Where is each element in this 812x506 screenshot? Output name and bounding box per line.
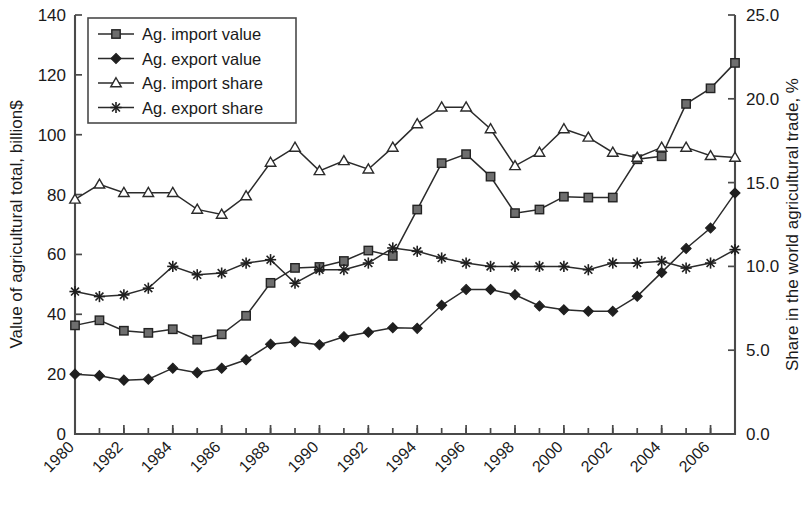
data-point (608, 147, 619, 156)
data-point (682, 100, 690, 108)
data-point (412, 119, 423, 128)
data-point (705, 257, 716, 268)
data-point (290, 337, 300, 347)
x-tick-label: 1996 (431, 438, 468, 475)
data-point (363, 257, 374, 268)
x-tick-label: 2004 (627, 438, 664, 475)
data-point (94, 291, 105, 302)
data-point (241, 257, 252, 268)
data-point (118, 289, 129, 300)
series-ag-export-value (70, 188, 740, 385)
data-point (95, 316, 103, 324)
chart-canvas: 020406080100120140 0.05.010.015.020.025.… (0, 0, 812, 506)
y-axis-tick-labels: 020406080100120140 (38, 6, 66, 444)
data-point (71, 321, 79, 329)
data-point (144, 329, 152, 337)
data-point (656, 256, 667, 267)
data-point (559, 305, 569, 315)
data-point (584, 193, 592, 201)
data-point (388, 323, 398, 333)
y2-tick-label: 25.0 (746, 6, 779, 25)
x-tick-label: 1982 (89, 438, 126, 475)
y-axis-title: Value of agricultural total, billion$ (7, 100, 26, 349)
data-point (193, 336, 201, 344)
data-point (169, 325, 177, 333)
data-point (731, 59, 739, 67)
data-point (266, 279, 274, 287)
data-point (681, 262, 692, 273)
y-tick-label: 60 (47, 245, 66, 264)
data-point (583, 306, 593, 316)
x-axis-tick-labels: 1980198219841986198819901992199419961998… (40, 438, 713, 475)
data-point (314, 264, 325, 275)
data-point (70, 194, 81, 203)
data-point (241, 355, 251, 365)
data-point (608, 306, 618, 316)
data-point (534, 261, 545, 272)
data-point (314, 340, 324, 350)
data-point (339, 332, 349, 342)
data-point (364, 246, 372, 254)
data-point (217, 363, 227, 373)
data-point (560, 192, 568, 200)
data-point (559, 124, 570, 133)
data-point (511, 209, 519, 217)
data-point (216, 268, 227, 279)
data-point (413, 205, 421, 213)
data-point (339, 156, 350, 165)
y-tick-label: 100 (38, 126, 66, 145)
data-point (340, 257, 348, 265)
y2-axis-title: Share in the world agricultural trade, % (783, 78, 802, 371)
x-tick-label: 1998 (480, 438, 517, 475)
x-tick-label: 2002 (578, 438, 615, 475)
legend-label: Ag. import share (142, 74, 263, 92)
data-point (217, 330, 225, 338)
x-tick-label: 2006 (675, 438, 712, 475)
x-tick-label: 1990 (284, 438, 321, 475)
y2-tick-label: 5.0 (746, 341, 770, 360)
data-point (510, 290, 520, 300)
legend-label: Ag. export value (142, 50, 261, 68)
agricultural-trade-chart: 020406080100120140 0.05.010.015.020.025.… (0, 0, 812, 506)
y2-axis-tick-labels: 0.05.010.015.020.025.0 (746, 6, 779, 444)
data-point (534, 301, 544, 311)
data-point (730, 188, 740, 198)
data-point (583, 264, 594, 275)
data-point (291, 264, 299, 272)
data-point (657, 152, 665, 160)
data-point (632, 257, 643, 268)
x-tick-label: 2000 (529, 438, 566, 475)
data-point (290, 142, 301, 151)
x-tick-label: 1984 (138, 438, 175, 475)
data-point (535, 205, 543, 213)
data-point (192, 368, 202, 378)
y-tick-label: 140 (38, 6, 66, 25)
x-tick-label: 1992 (333, 438, 370, 475)
y-tick-label: 120 (38, 66, 66, 85)
y-tick-label: 20 (47, 365, 66, 384)
legend-marker (110, 102, 121, 113)
data-point (558, 261, 569, 272)
y2-tick-label: 0.0 (746, 425, 770, 444)
data-point (706, 84, 714, 92)
data-point (69, 286, 80, 297)
data-point (609, 193, 617, 201)
data-point (509, 261, 520, 272)
y-tick-label: 40 (47, 305, 66, 324)
data-point (192, 204, 203, 213)
data-point (462, 150, 470, 158)
y-tick-label: 80 (47, 186, 66, 205)
x-tick-label: 1994 (382, 438, 419, 475)
y2-tick-label: 20.0 (746, 90, 779, 109)
data-point (607, 257, 618, 268)
data-point (265, 157, 276, 166)
data-point (387, 242, 398, 253)
data-point (461, 284, 471, 294)
data-point (167, 261, 178, 272)
data-point (510, 161, 521, 170)
y2-tick-label: 10.0 (746, 257, 779, 276)
data-point (485, 261, 496, 272)
data-point (168, 363, 178, 373)
legend-label: Ag. export share (142, 99, 263, 117)
data-point (363, 327, 373, 337)
